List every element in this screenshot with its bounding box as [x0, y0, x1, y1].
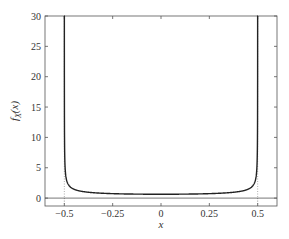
axis-ticks [45, 16, 277, 206]
chart: −0.5−0.2500.250.5051015202530 x fX(x) [0, 0, 289, 239]
y-tick-label: 25 [31, 41, 41, 52]
x-tick-label: 0.5 [251, 208, 264, 219]
y-tick-label: 15 [31, 102, 41, 113]
y-tick-label: 10 [31, 132, 41, 143]
axis-tick-labels: −0.5−0.2500.250.5051015202530 [31, 11, 264, 220]
y-tick-label: 5 [36, 162, 41, 173]
plot-frame [45, 16, 277, 206]
plot-border [45, 16, 277, 206]
reference-lines [45, 16, 277, 206]
x-tick-label: −0.5 [55, 208, 73, 219]
x-tick-label: −0.25 [101, 208, 124, 219]
y-axis-label-arg: (x) [8, 101, 21, 114]
y-tick-label: 20 [31, 71, 41, 82]
x-tick-label: 0.25 [201, 208, 219, 219]
y-tick-label: 0 [36, 193, 41, 204]
y-tick-label: 30 [31, 11, 41, 22]
x-axis-label: x [158, 218, 164, 230]
density-curve [64, 16, 257, 194]
density-curve-line [64, 16, 257, 194]
y-axis-label: fX(x) [8, 101, 23, 121]
